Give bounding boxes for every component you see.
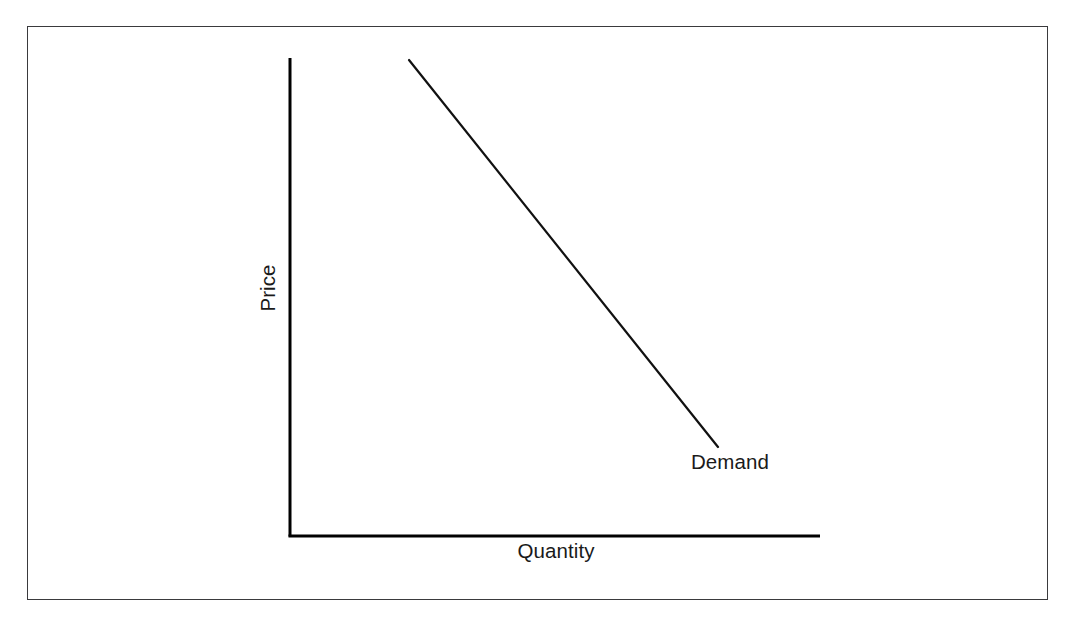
demand-curve-line xyxy=(409,60,718,447)
demand-curve-figure: Price Quantity Demand xyxy=(0,0,1076,624)
demand-curve-label: Demand xyxy=(691,452,769,473)
x-axis-label: Quantity xyxy=(517,541,594,562)
y-axis-label: Price xyxy=(258,264,279,311)
plot-drawing-surface xyxy=(0,0,1076,624)
